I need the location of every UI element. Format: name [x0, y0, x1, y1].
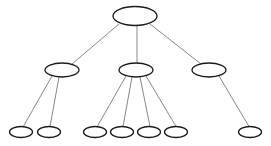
edge-root-to-mid-right: [150, 24, 201, 64]
edge-mid-center-to-leaf-6: [146, 76, 176, 127]
edge-mid-right-to-leaf-7: [219, 76, 249, 127]
node-leaf-3: [84, 127, 107, 138]
node-leaf-5: [138, 127, 161, 138]
node-leaf-7: [239, 127, 262, 138]
edge-root-to-mid-left: [72, 24, 119, 64]
node-root: [113, 7, 157, 26]
tree-diagram: [0, 0, 271, 146]
node-mid-left: [45, 63, 79, 77]
edge-mid-center-to-leaf-5: [140, 77, 150, 127]
node-group: [10, 7, 262, 138]
node-leaf-2: [38, 127, 61, 138]
node-leaf-6: [165, 127, 188, 138]
node-leaf-4: [111, 127, 134, 138]
node-mid-center: [119, 63, 153, 77]
node-mid-right: [192, 63, 226, 77]
node-leaf-1: [10, 127, 33, 138]
edge-mid-center-to-leaf-3: [97, 76, 126, 127]
edge-mid-center-to-leaf-4: [123, 77, 132, 127]
edge-mid-left-to-leaf-1: [23, 76, 52, 127]
edge-mid-left-to-leaf-2: [50, 77, 59, 127]
